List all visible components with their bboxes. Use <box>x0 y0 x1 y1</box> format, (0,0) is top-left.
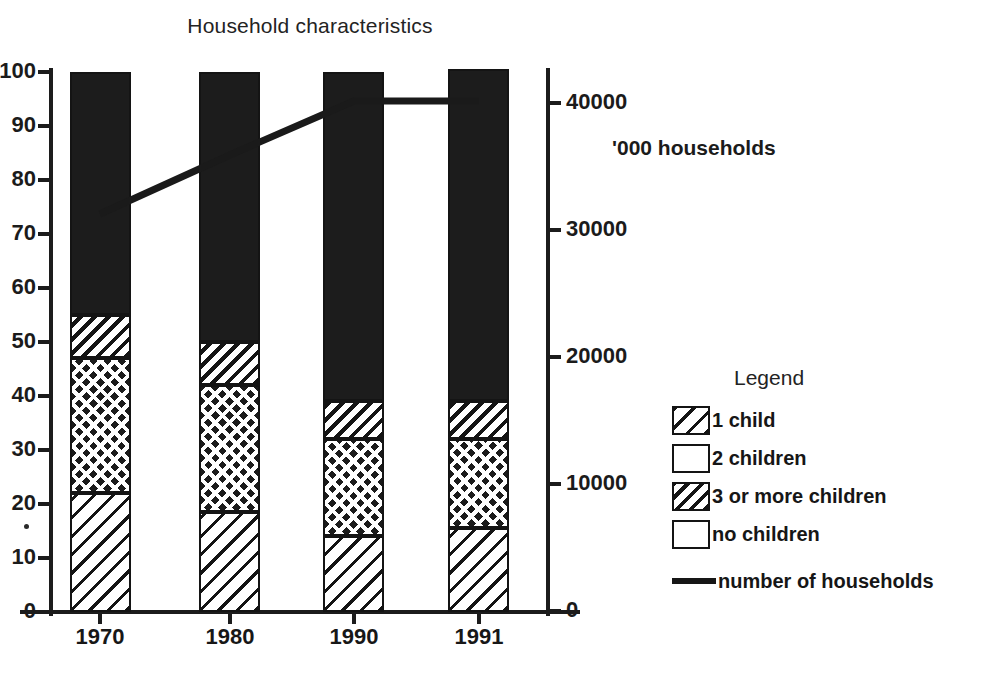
bar-segment-1990-1-child <box>323 536 384 612</box>
y2-tick-label-40000: 40000 <box>566 89 676 115</box>
legend: Legend 1 child 2 children 3 or more chil… <box>672 366 990 598</box>
y-tick-50 <box>38 340 51 344</box>
bar-segment-1970-1-child <box>70 493 131 612</box>
bar-segment-1980-no-children <box>199 72 260 342</box>
bar-segment-1990-2-children <box>323 439 384 536</box>
y2-tick-label-10000: 10000 <box>566 470 676 496</box>
bar-1970 <box>70 72 131 612</box>
x-tick-label-1991: 1991 <box>419 624 539 650</box>
y-tick-10 <box>38 556 51 560</box>
y-tick-label-30: 30 <box>0 436 36 462</box>
legend-swatch-3-or-more-children-icon <box>672 482 710 511</box>
y-axis-right-line <box>546 68 550 616</box>
y2-tick-30000 <box>548 228 561 232</box>
legend-swatch-no-children-icon <box>672 520 710 549</box>
legend-label-2-children: 2 children <box>712 447 806 470</box>
y2-tick-label-20000: 20000 <box>566 343 676 369</box>
y-tick-label-20: 20 <box>0 490 36 516</box>
bar-segment-1980-1-child <box>199 512 260 612</box>
legend-swatch-line-icon <box>672 578 716 584</box>
chart-figure: Household characteristics 100 90 80 70 6… <box>0 0 995 680</box>
y2-tick-10000 <box>548 482 561 486</box>
legend-label-3-or-more-children: 3 or more children <box>712 485 887 508</box>
x-tick-1991 <box>477 612 481 624</box>
y2-tick-40000 <box>548 101 561 105</box>
y-tick-40 <box>38 394 51 398</box>
bar-segment-1991-no-children <box>448 69 509 401</box>
y-tick-20 <box>38 502 51 506</box>
bar-segment-1970-2-children <box>70 358 131 493</box>
page-title: Household characteristics <box>0 14 620 38</box>
y2-axis-label: '000 households <box>612 136 776 160</box>
y2-tick-20000 <box>548 355 561 359</box>
bar-segment-1990-3-or-more <box>323 401 384 439</box>
y-tick-70 <box>38 232 51 236</box>
x-tick-1970 <box>98 612 102 624</box>
bar-segment-1991-1-child <box>448 528 509 612</box>
y-tick-label-10: 10 <box>0 544 36 570</box>
bar-segment-1980-2-children <box>199 385 260 512</box>
bar-1991 <box>448 69 509 612</box>
bar-segment-1990-no-children <box>323 72 384 401</box>
legend-title: Legend <box>734 366 990 390</box>
legend-label-number-of-households: number of households <box>718 570 934 593</box>
bar-segment-1980-3-or-more <box>199 342 260 385</box>
bar-1980 <box>199 72 260 612</box>
legend-label-no-children: no children <box>712 523 820 546</box>
y2-tick-label-0: 0 <box>566 597 676 623</box>
legend-item-no-children[interactable]: no children <box>672 516 990 552</box>
legend-swatch-1-child-icon <box>672 406 710 435</box>
bar-1990 <box>323 72 384 612</box>
y-tick-label-50: 50 <box>0 328 36 354</box>
y-tick-label-70: 70 <box>0 220 36 246</box>
y-tick-90 <box>38 124 51 128</box>
y-tick-label-60: 60 <box>0 274 36 300</box>
x-tick-label-1980: 1980 <box>170 624 290 650</box>
bar-segment-1970-3-or-more <box>70 315 131 358</box>
y-tick-60 <box>38 286 51 290</box>
bar-segment-1991-3-or-more <box>448 401 509 439</box>
bar-segment-1991-2-children <box>448 439 509 528</box>
y-tick-label-90: 90 <box>0 112 36 138</box>
y-tick-label-100: 100 <box>0 58 36 84</box>
legend-item-2-children[interactable]: 2 children <box>672 440 990 476</box>
y-tick-30 <box>38 448 51 452</box>
x-tick-1990 <box>352 612 356 624</box>
y-tick-100 <box>38 70 51 74</box>
legend-item-3-or-more-children[interactable]: 3 or more children <box>672 478 990 514</box>
y2-tick-label-30000: 30000 <box>566 216 676 242</box>
y-tick-label-80: 80 <box>0 166 36 192</box>
y-tick-label-0: 0 <box>0 598 36 624</box>
scan-artifact-dot <box>24 524 29 529</box>
bar-segment-1970-no-children <box>70 72 131 315</box>
x-tick-label-1990: 1990 <box>294 624 414 650</box>
legend-item-number-of-households[interactable]: number of households <box>672 566 990 596</box>
x-tick-label-1970: 1970 <box>40 624 160 650</box>
legend-label-1-child: 1 child <box>712 409 775 432</box>
y-tick-80 <box>38 178 51 182</box>
y2-tick-0 <box>548 609 561 613</box>
legend-swatch-2-children-icon <box>672 444 710 473</box>
legend-item-1-child[interactable]: 1 child <box>672 402 990 438</box>
y-tick-label-40: 40 <box>0 382 36 408</box>
x-tick-1980 <box>228 612 232 624</box>
